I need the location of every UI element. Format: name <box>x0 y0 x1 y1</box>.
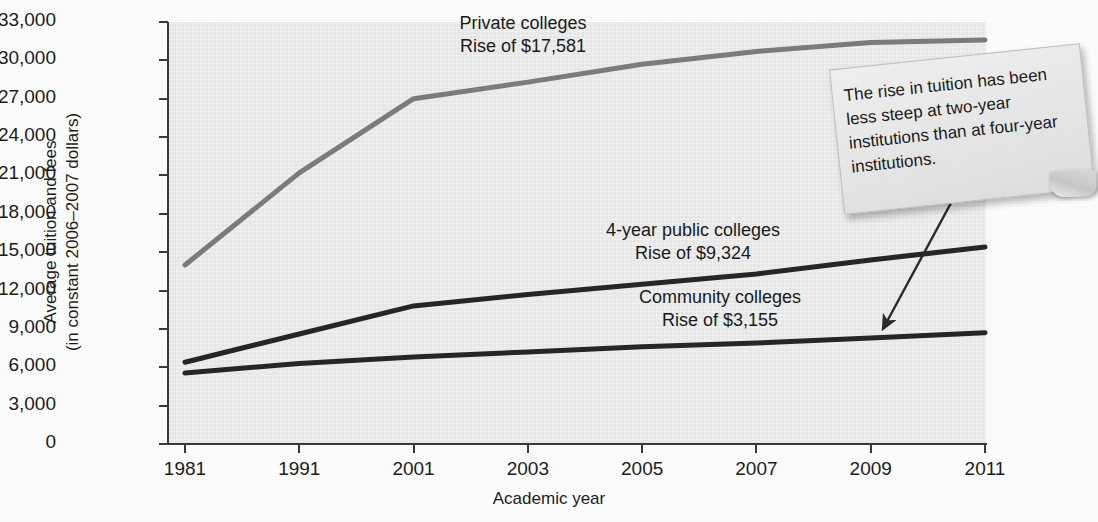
callout-note: The rise in tuition has been less steep … <box>829 43 1095 215</box>
callout-pointer-arrow <box>884 203 951 327</box>
tuition-line-chart-figure: 03,0006,0009,00012,00015,00018,00021,000… <box>0 0 1098 522</box>
callout-note-curl <box>1050 170 1097 198</box>
